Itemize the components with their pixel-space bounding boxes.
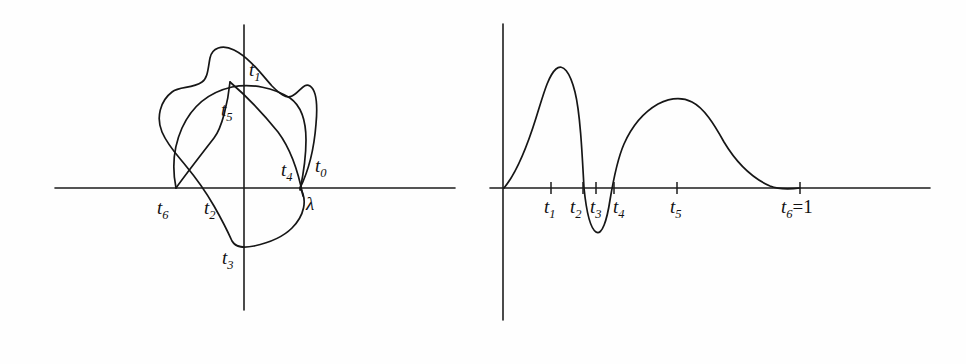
label-t3-sub: 3: [226, 258, 233, 272]
label-t3: t3: [222, 247, 234, 272]
right-label-t4: t4: [613, 196, 625, 221]
right-label-t2-sub: 2: [575, 207, 581, 221]
label-t4-sub: 4: [286, 170, 292, 184]
left-panel: t0 t1 t2 t3 t4 t5 t6 λ: [55, 25, 455, 310]
left-outer-closed-curve: [159, 47, 317, 247]
right-label-t4-sub: 4: [618, 207, 624, 221]
right-panel-labels: t1 t2 t3 t4 t5 t6=1: [544, 196, 813, 221]
label-t5-sub: 5: [226, 110, 232, 124]
label-t0: t0: [315, 155, 327, 180]
right-label-t5: t5: [670, 196, 682, 221]
figure-canvas: t0 t1 t2 t3 t4 t5 t6 λ: [0, 0, 966, 364]
left-chord-lower: [176, 82, 230, 188]
right-label-t3: t3: [590, 196, 602, 221]
label-t0-sub: 0: [320, 166, 327, 180]
label-t2: t2: [204, 197, 216, 222]
label-t6: t6: [157, 197, 169, 222]
right-label-t6-suffix: =1: [793, 196, 813, 217]
label-t4: t4: [281, 159, 293, 184]
right-label-t1: t1: [544, 196, 556, 221]
right-label-t5-sub: 5: [675, 207, 681, 221]
figure-root: t0 t1 t2 t3 t4 t5 t6 λ: [0, 0, 966, 364]
label-t2-sub: 2: [209, 208, 215, 222]
left-panel-labels: t0 t1 t2 t3 t4 t5 t6 λ: [157, 59, 327, 272]
right-label-t3-sub: 3: [594, 207, 601, 221]
right-label-t6: t6=1: [781, 196, 813, 221]
label-t1-sub: 1: [254, 70, 260, 84]
label-t6-sub: 6: [162, 208, 169, 222]
label-t1: t1: [249, 59, 261, 84]
right-label-t1-sub: 1: [549, 207, 555, 221]
label-lambda: λ: [305, 193, 314, 214]
right-panel: t1 t2 t3 t4 t5 t6=1: [490, 24, 930, 320]
right-label-t2: t2: [570, 196, 582, 221]
